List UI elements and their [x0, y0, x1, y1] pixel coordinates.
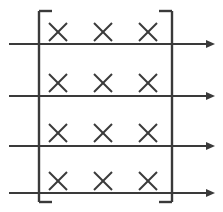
figure-root	[0, 0, 223, 212]
background	[0, 0, 223, 212]
bracket-grid-diagram	[0, 0, 223, 212]
